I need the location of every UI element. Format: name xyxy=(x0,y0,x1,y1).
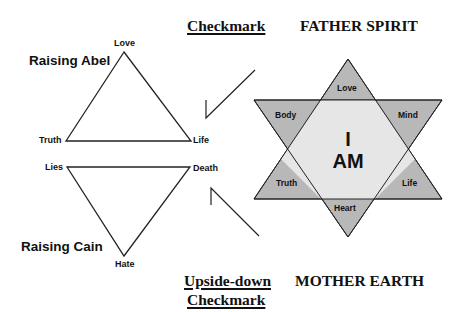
upside-down-checkmark-icon xyxy=(211,188,259,236)
diagram-canvas: Checkmark FATHER SPIRIT Upside-down Chec… xyxy=(0,0,458,312)
star-lower-right-label: Life xyxy=(402,178,417,188)
star-lower-left-label: Truth xyxy=(276,178,297,188)
checkmark-icon xyxy=(206,70,255,118)
star-bottom-label: Heart xyxy=(334,203,356,213)
diagram-graphics xyxy=(0,0,458,312)
star-center-line2: AM xyxy=(323,150,373,172)
abel-apex-label: Love xyxy=(114,38,135,48)
abel-left-label: Truth xyxy=(39,135,62,145)
cain-apex-label: Hate xyxy=(115,259,135,269)
raising-abel-title: Raising Abel xyxy=(29,53,110,68)
star-center-label: I AM xyxy=(323,128,373,172)
checkmark-heading: Checkmark xyxy=(187,17,265,35)
mother-earth-heading: MOTHER EARTH xyxy=(295,272,424,290)
star-upper-left-label: Body xyxy=(275,110,296,120)
raising-cain-title: Raising Cain xyxy=(21,239,103,254)
upside-down-heading-line1: Upside-down xyxy=(184,272,271,290)
upside-down-heading-line2: Checkmark xyxy=(187,291,265,309)
cain-left-label: Lies xyxy=(45,162,63,172)
abel-right-label: Life xyxy=(193,135,209,145)
star-center-line1: I xyxy=(323,128,373,150)
father-spirit-heading: FATHER SPIRIT xyxy=(300,17,418,35)
star-top-label: Love xyxy=(337,83,357,93)
star-upper-right-label: Mind xyxy=(398,110,418,120)
cain-right-label: Death xyxy=(193,163,218,173)
